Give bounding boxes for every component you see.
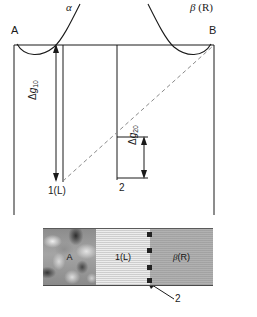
label-delta-g20: Δg20 [128, 125, 140, 145]
interface-marker [147, 278, 152, 283]
micrograph-segment-beta-r: β(R) [150, 229, 213, 285]
micrograph-label-1l: 1(L) [96, 252, 150, 262]
delta-g20-subscript: 20 [132, 125, 139, 133]
micrograph-beta-suffix: (R) [177, 252, 190, 262]
delta-g10-symbol: Δ [27, 93, 38, 100]
micrograph-label-a: A [43, 252, 96, 262]
label-beta-curve: β (R) [190, 2, 213, 13]
beta-suffix: (R) [195, 1, 212, 13]
label-point-a: A [11, 25, 18, 36]
label-composition-2: 2 [119, 183, 125, 193]
label-alpha-curve: α [66, 2, 72, 13]
delta-g10-subscript: 10 [32, 80, 39, 88]
delta-g20-symbol: Δ [127, 138, 138, 145]
interface-marker [147, 248, 152, 253]
label-composition-1: 1(L) [48, 186, 66, 196]
label-point-b: B [209, 25, 216, 36]
micrograph-callout-label: 2 [175, 294, 181, 304]
delta-g10-arrowhead-down [53, 173, 59, 182]
micrograph-label-beta-r: β(R) [150, 252, 213, 262]
interface-marker [147, 265, 152, 270]
micrograph-panel: A 1(L) β(R) [43, 228, 213, 286]
figure-container: A B α β (R) Δg10 Δg20 1(L) 2 A 1(L) β(R) [0, 0, 257, 317]
label-delta-g10: Δg10 [28, 80, 40, 100]
interface-marker [147, 232, 152, 237]
micrograph-segment-1l: 1(L) [96, 229, 150, 285]
delta-g10-g: g [27, 88, 38, 94]
delta-g20-g: g [127, 133, 138, 139]
dashed-tangent-line [63, 46, 213, 181]
micrograph-segment-a: A [43, 229, 96, 285]
